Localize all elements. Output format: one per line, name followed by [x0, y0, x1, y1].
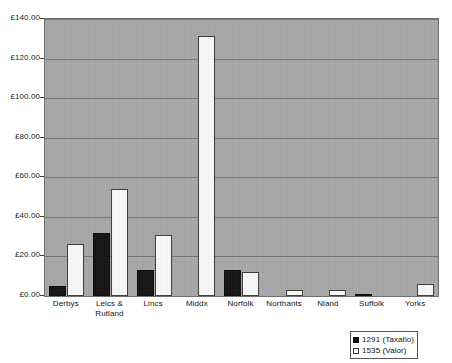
bar-derbys-valor: [67, 244, 84, 296]
bar-chart-figure: £0.00£20.00£40.00£60.00£80.00£100.00£120…: [0, 0, 452, 363]
y-axis-tick-label: £100.00: [0, 93, 40, 101]
bar-derbys-taxatio: [49, 286, 66, 296]
legend-item-taxatio: 1291 (Taxatio): [353, 334, 414, 345]
x-axis-label-yorks: Yorks: [393, 299, 437, 309]
x-axis-label-derbys: Derbys: [44, 299, 88, 309]
y-axis-tick-label: £80.00: [0, 133, 40, 141]
legend-swatch-filled-black-square-icon: [353, 337, 359, 343]
bar-middx-valor: [198, 36, 215, 296]
bar-leics-rutland-taxatio: [93, 233, 110, 296]
x-axis-label-suffolk: Suffolk: [350, 299, 394, 309]
y-axis-tick-label: £140.00: [0, 14, 40, 22]
bar-yorks-valor: [417, 284, 434, 296]
x-axis-label-middx: Middx: [175, 299, 219, 309]
bar-norfolk-taxatio: [224, 270, 241, 296]
bar-lincs-taxatio: [137, 270, 154, 296]
plot-area: [44, 18, 439, 297]
x-axis-label-lincs: Lincs: [131, 299, 175, 309]
bar-suffolk-taxatio: [355, 294, 372, 296]
bar-leics-rutland-valor: [111, 189, 128, 296]
legend-item-valor: 1535 (Valor): [353, 345, 414, 356]
x-axis-label-nland: Nland: [306, 299, 350, 309]
bar-nland-valor: [329, 290, 346, 296]
x-axis-label-leics-rutland: Leics & Rutland: [88, 299, 132, 318]
chart-legend: 1291 (Taxatio) 1535 (Valor): [350, 331, 418, 359]
bars-layer: [45, 19, 438, 296]
x-axis-label-northants: Northants: [262, 299, 306, 309]
legend-label-taxatio: 1291 (Taxatio): [362, 335, 414, 344]
y-axis-tick-label: £40.00: [0, 212, 40, 220]
bar-northants-valor: [286, 290, 303, 296]
y-axis: £0.00£20.00£40.00£60.00£80.00£100.00£120…: [0, 18, 40, 295]
x-axis-label-norfolk: Norfolk: [219, 299, 263, 309]
legend-swatch-open-white-square-icon: [353, 348, 359, 354]
bar-norfolk-valor: [242, 272, 259, 296]
y-axis-tick-label: £0.00: [0, 291, 40, 299]
y-axis-tick-label: £60.00: [0, 172, 40, 180]
y-axis-tick-label: £120.00: [0, 54, 40, 62]
x-axis-labels: DerbysLeics & RutlandLincsMiddxNorfolkNo…: [44, 299, 437, 325]
y-axis-tick-label: £20.00: [0, 251, 40, 259]
legend-label-valor: 1535 (Valor): [362, 346, 407, 355]
bar-lincs-valor: [155, 235, 172, 296]
